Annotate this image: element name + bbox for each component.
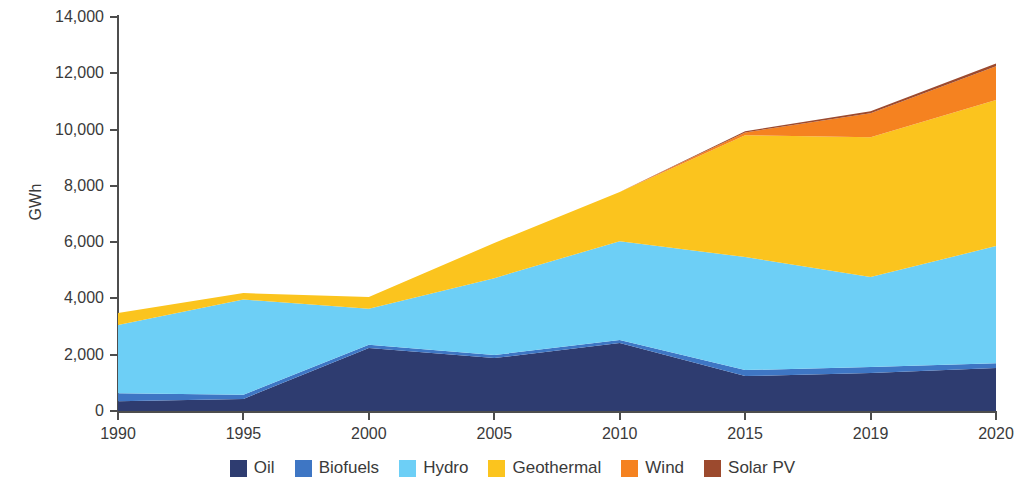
x-axis-tick [242, 413, 244, 420]
area-series-group [118, 17, 996, 411]
legend-swatch-icon [704, 460, 721, 477]
legend-item-biofuels[interactable]: Biofuels [295, 458, 379, 478]
y-axis-tick-label: 14,000 [32, 8, 104, 26]
legend-item-wind[interactable]: Wind [621, 458, 684, 478]
legend-swatch-icon [488, 460, 505, 477]
x-axis-tick [493, 413, 495, 420]
y-axis-tick-label: 12,000 [32, 64, 104, 82]
x-axis-tick [744, 413, 746, 420]
y-axis-tick-labels: 02,0004,0006,0008,00010,00012,00014,000 [28, 0, 104, 486]
y-axis-tick [110, 241, 117, 243]
x-axis-tick [368, 413, 370, 420]
y-axis-tick [110, 129, 117, 131]
legend-label: Solar PV [728, 458, 795, 478]
legend-swatch-icon [399, 460, 416, 477]
legend-swatch-icon [230, 460, 247, 477]
x-axis-tick [870, 413, 872, 420]
chart-legend: OilBiofuelsHydroGeothermalWindSolar PV [0, 458, 1025, 478]
y-axis-tick [110, 297, 117, 299]
y-axis-tick [110, 354, 117, 356]
x-axis-tick-label: 2005 [449, 425, 539, 443]
legend-label: Oil [254, 458, 275, 478]
y-axis-tick-label: 10,000 [32, 121, 104, 139]
y-axis-tick [110, 185, 117, 187]
legend-swatch-icon [621, 460, 638, 477]
legend-label: Biofuels [319, 458, 379, 478]
x-axis-tick-label: 2019 [826, 425, 916, 443]
x-axis-tick-label: 2020 [951, 425, 1025, 443]
x-axis-tick-label: 1990 [73, 425, 163, 443]
x-axis-tick-label: 2010 [575, 425, 665, 443]
y-axis-tick [110, 410, 117, 412]
y-axis-tick [110, 72, 117, 74]
legend-item-geothermal[interactable]: Geothermal [488, 458, 601, 478]
legend-label: Wind [645, 458, 684, 478]
legend-item-hydro[interactable]: Hydro [399, 458, 468, 478]
y-axis-tick-label: 0 [32, 402, 104, 420]
legend-item-solar-pv[interactable]: Solar PV [704, 458, 795, 478]
y-axis-tick [110, 16, 117, 18]
stacked-area-chart: GWh 02,0004,0006,0008,00010,00012,00014,… [0, 0, 1025, 486]
y-axis-tick-label: 8,000 [32, 177, 104, 195]
x-axis-line [117, 411, 997, 413]
y-axis-tick-label: 6,000 [32, 233, 104, 251]
x-axis-tick [117, 413, 119, 420]
x-axis-tick-label: 2015 [700, 425, 790, 443]
legend-label: Geothermal [512, 458, 601, 478]
legend-label: Hydro [423, 458, 468, 478]
plot-area [118, 17, 996, 411]
x-axis-tick-label: 2000 [324, 425, 414, 443]
y-axis-tick-label: 2,000 [32, 346, 104, 364]
y-axis-tick-label: 4,000 [32, 289, 104, 307]
legend-item-oil[interactable]: Oil [230, 458, 275, 478]
x-axis-tick [619, 413, 621, 420]
x-axis-tick [995, 413, 997, 420]
x-axis-tick-label: 1995 [198, 425, 288, 443]
legend-swatch-icon [295, 460, 312, 477]
